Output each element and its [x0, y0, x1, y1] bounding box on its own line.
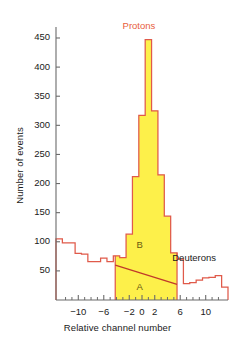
y-tick-label-350: 350 [8, 90, 50, 101]
x-axis-title: Relative channel number [0, 322, 235, 333]
region-b-annotation: B [136, 239, 142, 250]
histogram-plot [0, 0, 235, 340]
region-a-annotation: A [136, 281, 142, 292]
protons-annotation: Protons [123, 20, 156, 31]
y-tick-label-50: 50 [8, 264, 50, 275]
y-tick-label-100: 100 [8, 235, 50, 246]
deuterons-annotation: Deuterons [172, 252, 216, 263]
x-tick-label-10: 10 [191, 306, 221, 317]
shaded-region-group [115, 40, 177, 300]
yellow-shaded-region [115, 40, 177, 300]
y-axis-tick-marks [56, 38, 60, 271]
y-axis-title: Number of events [14, 101, 25, 231]
y-tick-label-450: 450 [8, 31, 50, 42]
y-tick-label-400: 400 [8, 61, 50, 72]
chart-figure: 50100150200250300350400450 −10−6−202610 … [0, 0, 235, 340]
